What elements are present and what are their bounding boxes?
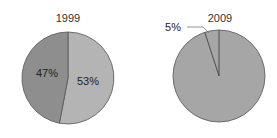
pie-2009-title: 2009 — [208, 12, 232, 24]
pie-1999: 1999 47% 53% — [22, 12, 114, 124]
pie-charts: 1999 47% 53% 2009 5% — [0, 0, 277, 138]
label-5: 5% — [165, 21, 181, 33]
label-47: 47% — [36, 67, 58, 79]
pie-1999-title: 1999 — [56, 12, 80, 24]
label-53: 53% — [77, 75, 99, 87]
pie-2009: 2009 5% — [165, 12, 265, 122]
